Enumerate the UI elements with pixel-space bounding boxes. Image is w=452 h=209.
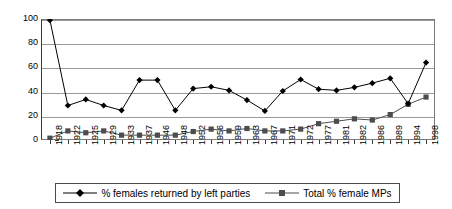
legend-item-total-mps: Total % female MPs — [265, 188, 391, 199]
x-axis-tick-mark — [193, 140, 194, 144]
x-axis-tick-mark — [283, 140, 284, 144]
series-layer — [41, 19, 435, 140]
data-point-diamond — [208, 84, 214, 90]
y-axis-tick-label: 80 — [28, 38, 38, 47]
x-axis-tick-mark — [390, 140, 391, 144]
x-axis-tick-label: 1986 — [376, 125, 386, 145]
data-point-square — [83, 130, 88, 135]
data-point-square — [155, 133, 160, 138]
x-axis-tick-label: 1946 — [161, 125, 171, 145]
x-axis-tick-mark — [104, 140, 105, 144]
chart-legend: % females returned by left parties Total… — [55, 183, 400, 203]
x-axis-tick-mark — [372, 140, 373, 144]
data-point-square — [101, 128, 106, 133]
legend-item-left-parties: % females returned by left parties — [63, 188, 250, 199]
data-point-square — [173, 133, 178, 138]
x-axis-tick-label: 1972 — [305, 125, 315, 145]
data-point-square — [244, 126, 249, 131]
data-point-diamond — [154, 77, 160, 83]
legend-label-total-mps: Total % female MPs — [303, 188, 391, 199]
data-point-diamond — [244, 97, 250, 103]
x-axis-tick-label: 1937 — [144, 125, 154, 145]
x-axis-tick-mark — [68, 140, 69, 144]
data-point-square — [209, 127, 214, 132]
x-axis-tick-label: 1922 — [72, 125, 82, 145]
x-axis-tick-mark — [122, 140, 123, 144]
line-chart: 020406080100 191819221925192919331937194… — [0, 0, 452, 209]
x-axis-tick-mark — [319, 140, 320, 144]
y-axis-tick-label: 60 — [28, 62, 38, 71]
data-point-diamond — [226, 87, 232, 93]
series-left-parties — [47, 19, 429, 114]
data-point-diamond — [101, 102, 107, 108]
data-point-diamond — [369, 80, 375, 86]
x-axis-tick-label: 1981 — [341, 125, 351, 145]
data-point-square — [65, 128, 70, 133]
x-axis-tick-label: 1998 — [430, 125, 440, 145]
x-axis-tick-mark — [140, 140, 141, 144]
data-point-square — [388, 112, 393, 117]
data-point-diamond — [387, 75, 393, 81]
x-axis-tick-mark — [354, 140, 355, 144]
data-point-diamond — [65, 102, 71, 108]
x-axis-tick-label: 1982 — [358, 125, 368, 145]
data-point-square — [137, 133, 142, 138]
x-axis-tick-mark — [175, 140, 176, 144]
x-axis-tick-mark — [86, 140, 87, 144]
x-axis-tick-label: 1989 — [394, 125, 404, 145]
y-axis-tick-label: 100 — [23, 14, 38, 23]
data-point-diamond — [333, 87, 339, 93]
x-axis-tick-mark — [247, 140, 248, 144]
data-point-square — [334, 119, 339, 124]
x-axis-tick-mark — [408, 140, 409, 144]
data-point-diamond — [423, 59, 429, 65]
x-axis-tick-mark — [229, 140, 230, 144]
x-axis-tick-mark — [265, 140, 266, 144]
data-point-diamond — [298, 76, 304, 82]
data-point-square — [226, 128, 231, 133]
series-svg — [41, 19, 435, 140]
data-point-square — [352, 116, 357, 121]
data-point-square — [423, 94, 428, 99]
data-point-square — [191, 129, 196, 134]
y-axis-tick-label: 20 — [28, 111, 38, 120]
x-axis-tick-label: 1929 — [108, 125, 118, 145]
x-axis-tick-label: 1956 — [215, 125, 225, 145]
data-point-square — [280, 128, 285, 133]
x-axis-tick-label: 1977 — [323, 125, 333, 145]
x-axis-tick-mark — [426, 140, 427, 144]
x-axis-tick-mark — [211, 140, 212, 144]
x-axis-tick-label: 1963 — [251, 125, 261, 145]
x-axis-tick-label: 1925 — [90, 125, 100, 145]
data-point-square — [262, 128, 267, 133]
series-line — [50, 20, 426, 111]
x-axis-tick-label: 1933 — [126, 125, 136, 145]
y-axis-labels: 020406080100 — [18, 19, 38, 140]
x-axis-tick-label: 1994 — [412, 125, 422, 145]
data-point-diamond — [118, 107, 124, 113]
data-point-square — [119, 133, 124, 138]
data-point-diamond — [315, 86, 321, 92]
x-axis-tick-label: 1948 — [179, 125, 189, 145]
x-axis-tick-mark — [50, 140, 51, 144]
x-axis-tick-label: 1918 — [54, 125, 64, 145]
data-point-diamond — [83, 96, 89, 102]
x-axis-tick-label: 1952 — [197, 125, 207, 145]
y-axis-tick-label: 0 — [33, 135, 38, 144]
x-axis-tick-mark — [301, 140, 302, 144]
legend-label-left-parties: % females returned by left parties — [101, 188, 250, 199]
data-point-square — [370, 117, 375, 122]
x-axis-tick-label: 1971 — [287, 125, 297, 145]
diamond-marker-icon — [63, 188, 97, 198]
x-axis-tick-label: 1959 — [233, 125, 243, 145]
data-point-diamond — [351, 84, 357, 90]
x-axis-tick-mark — [337, 140, 338, 144]
square-marker-icon — [265, 188, 299, 198]
data-point-square — [298, 127, 303, 132]
y-axis-tick-label: 40 — [28, 87, 38, 96]
data-point-diamond — [136, 77, 142, 83]
x-axis-labels: 1918192219251929193319371946194819521956… — [41, 145, 435, 173]
x-axis-tick-label: 1967 — [269, 125, 279, 145]
x-axis-tick-mark — [157, 140, 158, 144]
data-point-diamond — [47, 19, 53, 23]
